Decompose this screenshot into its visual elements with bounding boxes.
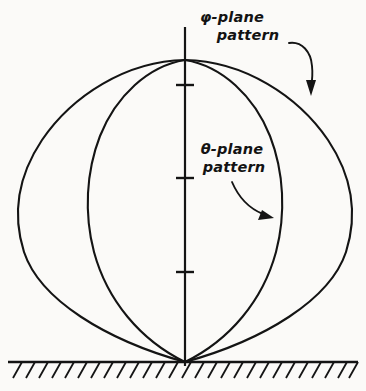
theta-plane-curve-right <box>185 60 282 362</box>
theta-plane-label-line1: θ-plane <box>201 141 264 157</box>
phi-plane-curve-left <box>18 60 185 362</box>
radiation-pattern-figure: φ-plane pattern θ-plane pattern <box>0 0 366 391</box>
radiation-pattern-diagram: φ-plane pattern θ-plane pattern <box>0 0 366 391</box>
theta-plane-curve-left <box>88 60 185 362</box>
theta-plane-annotation: θ-plane pattern <box>201 141 274 220</box>
vertical-axis-group <box>176 27 194 366</box>
phi-plane-arrowhead-icon <box>306 80 316 96</box>
theta-plane-arrowhead-icon <box>258 210 274 220</box>
phi-plane-label-line1: φ-plane <box>200 9 264 25</box>
phi-plane-label-line2: pattern <box>216 27 280 43</box>
theta-plane-label-line2: pattern <box>202 159 266 175</box>
phi-plane-curve-right <box>185 60 352 362</box>
theta-plane-leader-line <box>232 182 263 214</box>
phi-plane-annotation: φ-plane pattern <box>200 9 316 96</box>
ground-plane-group <box>8 362 358 378</box>
